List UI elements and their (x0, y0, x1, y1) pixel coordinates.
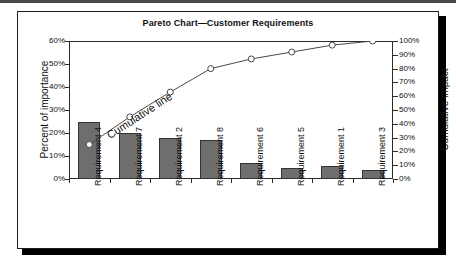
y-right-tick-mark (393, 55, 398, 56)
y-right-tick-mark (393, 110, 398, 111)
cumulative-line-marker (329, 42, 335, 48)
y-right-tick-mark (393, 124, 398, 125)
cumulative-line-marker (86, 142, 92, 148)
y-left-tick-label: 10% (25, 152, 65, 160)
x-axis-tick-mark (353, 179, 354, 183)
y-right-tick-label: 40% (399, 120, 439, 128)
y-right-tick-label: 80% (399, 65, 439, 73)
cumulative-line-marker (289, 49, 295, 55)
y-right-tick-mark (393, 165, 398, 166)
chart-figure-frame: Pareto Chart—Customer Requirements Perce… (17, 11, 439, 249)
cumulative-line-marker (248, 56, 254, 62)
y-right-tick-label: 20% (399, 147, 439, 155)
x-axis-tick-mark (69, 179, 70, 183)
y-right-tick-label: 50% (399, 106, 439, 114)
x-axis-tick-mark (272, 179, 273, 183)
y-left-tick-label: 60% (25, 37, 65, 45)
y-right-tick-label: 100% (399, 37, 439, 45)
cumulative-line-series (69, 41, 393, 179)
x-axis-tick-mark (393, 179, 394, 183)
chart-title: Pareto Chart—Customer Requirements (18, 18, 438, 28)
cumulative-line-marker (208, 66, 214, 72)
cumulative-line-path (89, 41, 373, 145)
y-right-tick-mark (393, 41, 398, 42)
y-right-tick-mark (393, 96, 398, 97)
plot-area: 0%10%20%30%40%50%60% 0%10%20%30%40%50%60… (69, 41, 393, 179)
x-axis-tick-mark (191, 179, 192, 183)
y-right-tick-mark (393, 69, 398, 70)
y-right-tick-label: 70% (399, 78, 439, 86)
y-right-tick-label: 30% (399, 134, 439, 142)
y-right-tick-label: 0% (399, 175, 439, 183)
page-root: Pareto Chart—Customer Requirements Perce… (0, 0, 456, 270)
y-left-tick-label: 40% (25, 83, 65, 91)
y-right-tick-mark (393, 82, 398, 83)
y-left-tick-label: 50% (25, 60, 65, 68)
y-right-tick-label: 10% (399, 161, 439, 169)
x-axis-tick-mark (312, 179, 313, 183)
y-right-tick-label: 60% (399, 92, 439, 100)
y-right-tick-mark (393, 138, 398, 139)
x-axis-tick-mark (231, 179, 232, 183)
x-axis-tick-mark (110, 179, 111, 183)
y-left-tick-label: 0% (25, 175, 65, 183)
y-right-tick-mark (393, 151, 398, 152)
y-left-tick-label: 20% (25, 129, 65, 137)
y-left-tick-label: 30% (25, 106, 65, 114)
scan-edge-band (0, 0, 456, 3)
x-axis-tick-mark (150, 179, 151, 183)
y-axis-right-title: Cumulative impact (439, 40, 450, 180)
y-right-tick-label: 90% (399, 51, 439, 59)
cumulative-line-marker (370, 41, 376, 44)
